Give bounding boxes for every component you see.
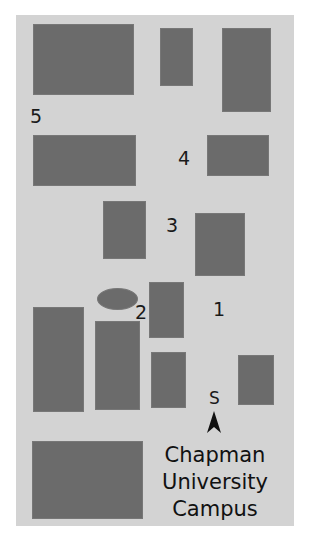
map-label-4: 4 (178, 149, 190, 168)
compass-label: S (209, 390, 220, 407)
building (33, 135, 136, 186)
map-title-line-2: University (160, 469, 270, 496)
map-label-2: 2 (135, 303, 147, 322)
building (195, 213, 245, 276)
building (222, 28, 271, 112)
building-oval (97, 288, 138, 310)
map-title: Chapman University Campus (160, 442, 270, 523)
map-title-line-3: Campus (160, 496, 270, 523)
building (151, 352, 186, 408)
map-title-line-1: Chapman (160, 442, 270, 469)
building (32, 441, 143, 519)
building (207, 135, 269, 176)
building (103, 201, 146, 259)
arrow-up-icon (206, 411, 222, 433)
building (149, 282, 184, 338)
building (160, 28, 193, 86)
building (33, 307, 84, 412)
map-label-3: 3 (166, 216, 178, 235)
map-label-1: 1 (213, 300, 225, 319)
building (95, 321, 140, 410)
building (238, 355, 274, 405)
map-label-5: 5 (30, 107, 42, 126)
building (33, 24, 134, 95)
